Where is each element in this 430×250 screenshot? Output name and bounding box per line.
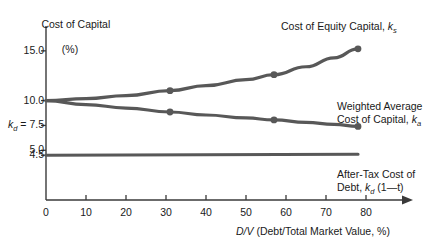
data-point-marker bbox=[271, 117, 278, 124]
data-point-marker bbox=[271, 71, 278, 78]
x-tick-label-20: 20 bbox=[111, 206, 141, 218]
data-point-marker bbox=[167, 109, 174, 116]
x-tick-label-70: 70 bbox=[311, 206, 341, 218]
series-line-2 bbox=[46, 154, 358, 155]
y-tick-label-10-0: 10.0 bbox=[0, 94, 44, 106]
x-tick-label-80: 80 bbox=[351, 206, 381, 218]
cost-of-capital-chart: Cost of Capital (%) 4.55.0kd = 7.510.015… bbox=[0, 0, 430, 250]
x-tick-label-0: 0 bbox=[31, 206, 61, 218]
data-point-marker bbox=[355, 45, 362, 52]
y-tick-label-7-5: kd = 7.5 bbox=[0, 118, 44, 133]
y-tick-label-5-0: 5.0 bbox=[0, 143, 44, 155]
series-line-1 bbox=[46, 101, 358, 127]
x-tick-label-30: 30 bbox=[151, 206, 181, 218]
data-point-marker bbox=[167, 87, 174, 94]
x-tick-label-60: 60 bbox=[271, 206, 301, 218]
x-tick-label-50: 50 bbox=[231, 206, 261, 218]
y-tick-label-15-0: 15.0 bbox=[0, 44, 44, 56]
x-axis-title: D/V (Debt/Total Market Value, %) bbox=[236, 225, 390, 237]
series-label-weighted-average-cost-of-capital: Weighted AverageCost of Capital, ka bbox=[337, 100, 422, 128]
series-label-cost-of-equity-capital: Cost of Equity Capital, ks bbox=[281, 20, 397, 35]
series-label-after-tax-cost-of-debt: After-Tax Cost ofDebt, kd (1—t) bbox=[337, 168, 415, 196]
y-axis-title-line1: Cost of Capital bbox=[41, 18, 110, 30]
x-tick-label-40: 40 bbox=[191, 206, 221, 218]
x-tick-label-10: 10 bbox=[71, 206, 101, 218]
